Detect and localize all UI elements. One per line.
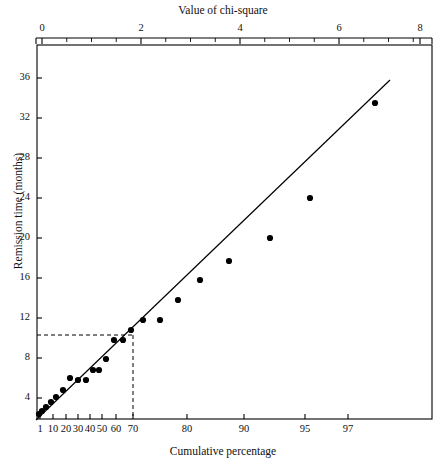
data-point (53, 394, 59, 400)
x-axis-tick-label: 80 (175, 423, 199, 434)
y-axis-tick-label: 28 (6, 151, 30, 162)
data-point (175, 297, 181, 303)
y-axis-tick-label: 36 (6, 71, 30, 82)
top-axis-tick-label: 4 (226, 22, 254, 33)
data-point (128, 327, 134, 333)
data-point (48, 399, 54, 405)
top-axis-tick-label: 0 (28, 22, 56, 33)
y-axis-tick-label: 24 (6, 191, 30, 202)
data-point (83, 377, 89, 383)
data-point (307, 195, 313, 201)
data-point (111, 337, 117, 343)
probability-plot-canvas (0, 0, 446, 467)
x-axis-tick-label: 90 (232, 423, 256, 434)
y-axis-tick-label: 20 (6, 231, 30, 242)
data-point (157, 317, 163, 323)
chart-figure: Value of chi-square Cumulative percentag… (0, 0, 446, 467)
data-point (60, 387, 66, 393)
data-point (43, 404, 49, 410)
bottom-axis-title: Cumulative percentage (0, 445, 446, 457)
y-axis-tick-label: 32 (6, 111, 30, 122)
top-axis-tick-label: 6 (325, 22, 353, 33)
data-point (140, 317, 146, 323)
data-point (372, 100, 378, 106)
data-point (197, 277, 203, 283)
y-axis-tick-label: 16 (6, 271, 30, 282)
data-point (90, 367, 96, 373)
data-point (120, 337, 126, 343)
y-axis-tick-label: 8 (6, 351, 30, 362)
y-axis-tick-label: 4 (6, 391, 30, 402)
data-point (75, 377, 81, 383)
top-axis-title: Value of chi-square (0, 4, 446, 16)
top-axis-tick-label: 2 (127, 22, 155, 33)
fitted-line (36, 80, 390, 420)
data-point (226, 258, 232, 264)
data-point (267, 235, 273, 241)
x-axis-tick-label: 95 (293, 423, 317, 434)
x-axis-tick-label: 97 (336, 423, 360, 434)
data-point (103, 356, 109, 362)
x-axis-tick-label: 70 (121, 423, 145, 434)
data-point (67, 375, 73, 381)
y-axis-tick-label: 12 (6, 311, 30, 322)
data-point (96, 367, 102, 373)
top-axis-tick-label: 8 (406, 22, 434, 33)
